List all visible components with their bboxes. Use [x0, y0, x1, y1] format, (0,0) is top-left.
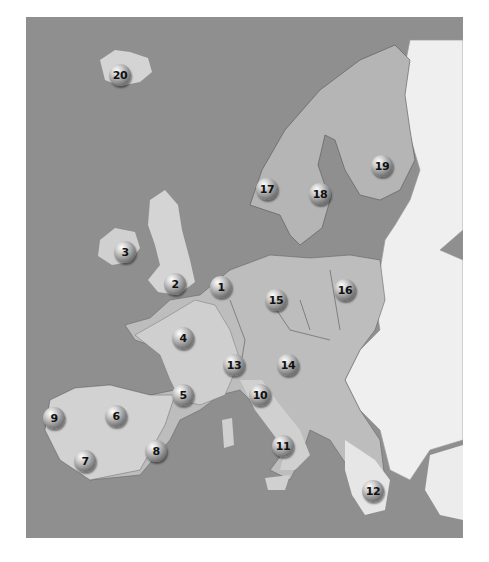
marker-label: 9: [50, 412, 57, 425]
marker-17[interactable]: 17: [256, 178, 278, 200]
marker-2[interactable]: 2: [164, 273, 186, 295]
marker-label: 3: [121, 246, 128, 259]
marker-label: 5: [179, 389, 186, 402]
marker-label: 7: [81, 455, 88, 468]
marker-label: 11: [276, 440, 290, 453]
marker-label: 16: [338, 284, 352, 297]
marker-label: 2: [171, 278, 178, 291]
marker-5[interactable]: 5: [172, 384, 194, 406]
marker-4[interactable]: 4: [172, 327, 194, 349]
marker-label: 4: [179, 332, 186, 345]
marker-label: 12: [366, 485, 380, 498]
marker-8[interactable]: 8: [145, 440, 167, 462]
europe-map: 1 2 3 4 5 6 7 8 9 10 11 12 13 14 15 16 1…: [26, 17, 463, 538]
marker-16[interactable]: 16: [334, 279, 356, 301]
marker-label: 14: [281, 359, 295, 372]
marker-label: 8: [152, 445, 159, 458]
marker-13[interactable]: 13: [223, 354, 245, 376]
marker-9[interactable]: 9: [43, 407, 65, 429]
marker-label: 15: [269, 294, 283, 307]
marker-1[interactable]: 1: [210, 276, 232, 298]
marker-11[interactable]: 11: [272, 435, 294, 457]
marker-12[interactable]: 12: [362, 480, 384, 502]
marker-19[interactable]: 19: [371, 155, 393, 177]
marker-label: 13: [227, 359, 241, 372]
marker-label: 10: [253, 389, 267, 402]
marker-7[interactable]: 7: [74, 450, 96, 472]
marker-18[interactable]: 18: [309, 183, 331, 205]
marker-14[interactable]: 14: [277, 354, 299, 376]
marker-10[interactable]: 10: [249, 384, 271, 406]
marker-label: 19: [375, 160, 389, 173]
marker-label: 17: [260, 183, 274, 196]
marker-label: 20: [113, 69, 127, 82]
marker-label: 6: [112, 410, 119, 423]
marker-label: 18: [313, 188, 327, 201]
marker-3[interactable]: 3: [114, 241, 136, 263]
marker-6[interactable]: 6: [105, 405, 127, 427]
marker-15[interactable]: 15: [265, 289, 287, 311]
marker-label: 1: [217, 281, 224, 294]
marker-20[interactable]: 20: [109, 64, 131, 86]
